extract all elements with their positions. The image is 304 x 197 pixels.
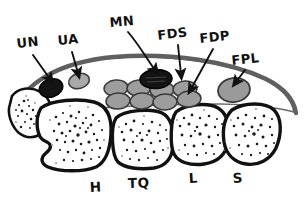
label-L: L bbox=[188, 170, 198, 186]
bone-scaphoid bbox=[223, 104, 280, 164]
label-UN: UN bbox=[16, 34, 40, 51]
bone-lunate bbox=[171, 105, 228, 165]
label-FPL: FPL bbox=[231, 50, 260, 68]
label-MN: MN bbox=[109, 13, 135, 30]
tendon-ellipse bbox=[153, 94, 178, 111]
bone-labels-group: H TQ L S bbox=[89, 169, 243, 195]
label-FDS: FDS bbox=[157, 24, 189, 43]
label-TQ: TQ bbox=[128, 174, 150, 191]
tendon-ellipse bbox=[130, 92, 155, 109]
bone-hamate bbox=[37, 100, 111, 171]
diagram-canvas: UN UA MN FDS FDP FPL H TQ L S bbox=[0, 0, 304, 197]
leader-UN bbox=[33, 55, 50, 79]
label-S: S bbox=[232, 169, 243, 186]
carpal-tunnel-diagram: UN UA MN FDS FDP FPL H TQ L S bbox=[0, 0, 304, 197]
label-H: H bbox=[89, 178, 102, 195]
label-UA: UA bbox=[57, 31, 79, 48]
label-FDP: FDP bbox=[199, 28, 231, 46]
bone-triquetrum bbox=[112, 110, 173, 168]
